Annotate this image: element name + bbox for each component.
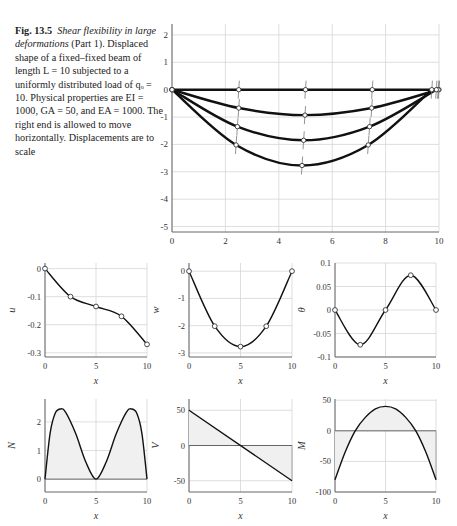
y-axis-label: V <box>150 441 161 449</box>
y-tick-label: -0.05 <box>313 329 331 339</box>
w-plot: 05100-1-2-3xw <box>150 263 296 386</box>
y-tick-label: 0 <box>37 264 41 274</box>
y-tick-label: 1 <box>164 57 169 67</box>
y-tick-label: -1 <box>161 112 169 122</box>
x-tick-label: 10 <box>432 361 441 371</box>
x-tick-label: 5 <box>383 496 387 506</box>
x-tick-label: 0 <box>187 496 191 506</box>
data-point <box>434 308 439 313</box>
x-tick-label: 10 <box>143 361 152 371</box>
node-marker <box>430 87 434 91</box>
node-marker <box>367 124 371 128</box>
node-marker <box>370 87 374 91</box>
x-tick-label: 8 <box>383 236 388 246</box>
node-marker <box>303 87 307 91</box>
y-tick-label: 0 <box>181 266 185 276</box>
data-point <box>119 314 124 319</box>
y-axis-label: θ <box>296 307 307 312</box>
y-tick-label: -2 <box>178 321 185 331</box>
node-marker <box>370 106 374 110</box>
data-point <box>238 344 243 349</box>
data-point <box>68 294 73 299</box>
y-tick-label: -0.2 <box>28 320 41 330</box>
V-plot: 0510500-50xV <box>150 399 296 521</box>
x-axis-label: x <box>382 375 388 386</box>
x-tick-label: 10 <box>435 236 445 246</box>
figure-canvas: 0246810210-1-2-3-4-505100-0.1-0.2-0.3xu0… <box>0 0 457 526</box>
y-tick-label: -3 <box>161 167 169 177</box>
y-axis-label: w <box>150 306 161 313</box>
data-point <box>290 269 295 274</box>
node-marker <box>303 113 307 117</box>
x-tick-label: 5 <box>94 361 98 371</box>
x-tick-label: 10 <box>143 496 152 506</box>
y-tick-label: 0.05 <box>316 282 331 292</box>
N-plot: 0510210xN <box>6 399 151 521</box>
data-point <box>187 269 192 274</box>
y-tick-label: -4 <box>161 194 169 204</box>
data-point <box>212 324 217 329</box>
node-marker <box>300 163 304 167</box>
y-tick-label: 1 <box>37 446 41 456</box>
y-tick-label: -0.1 <box>318 352 331 362</box>
x-tick-label: 10 <box>432 496 441 506</box>
M-plot: 0510500-50-100xM <box>296 395 440 521</box>
x-tick-label: 0 <box>187 361 191 371</box>
y-tick-label: 0 <box>327 426 331 436</box>
y-axis-label: N <box>6 441 17 450</box>
y-tick-label: -1 <box>178 293 185 303</box>
node-marker <box>366 143 370 147</box>
u-plot: 05100-0.1-0.2-0.3xu <box>6 263 151 386</box>
x-tick-label: 10 <box>288 496 297 506</box>
x-tick-label: 0 <box>333 361 337 371</box>
displaced-shape: 0246810210-1-2-3-4-5 <box>161 24 445 246</box>
y-tick-label: -5 <box>161 222 169 232</box>
data-point <box>145 342 150 347</box>
theta-plot: 05100.10.050-0.05-0.1xθ <box>296 258 440 386</box>
node-marker <box>170 87 174 91</box>
data-point <box>94 304 99 309</box>
node-marker <box>301 138 305 142</box>
node-marker <box>237 87 241 91</box>
y-axis-label: u <box>6 307 17 312</box>
y-axis-label: M <box>296 440 307 451</box>
x-tick-label: 0 <box>43 496 47 506</box>
y-tick-label: 0 <box>164 85 169 95</box>
x-tick-label: 6 <box>330 236 335 246</box>
y-tick-label: -0.1 <box>28 292 41 302</box>
y-tick-label: -100 <box>315 487 331 497</box>
node-marker <box>234 143 238 147</box>
data-point <box>383 308 388 313</box>
y-tick-label: 0 <box>181 441 185 451</box>
x-tick-label: 4 <box>277 236 282 246</box>
x-axis-label: x <box>93 510 99 521</box>
x-axis-label: x <box>237 375 243 386</box>
y-tick-label: -3 <box>178 348 185 358</box>
x-tick-label: 10 <box>288 361 297 371</box>
y-tick-label: -2 <box>161 139 169 149</box>
y-tick-label: -50 <box>174 476 185 486</box>
x-tick-label: 5 <box>94 496 98 506</box>
x-axis-label: x <box>93 375 99 386</box>
data-point <box>358 342 363 347</box>
data-point <box>333 308 338 313</box>
y-tick-label: 0 <box>37 474 41 484</box>
y-tick-label: -0.3 <box>28 348 41 358</box>
y-tick-label: 2 <box>164 30 169 40</box>
data-point <box>43 266 48 271</box>
x-tick-label: 0 <box>333 496 337 506</box>
data-point <box>408 273 413 278</box>
y-tick-label: -50 <box>320 456 331 466</box>
x-tick-label: 0 <box>170 236 175 246</box>
x-tick-label: 5 <box>383 361 387 371</box>
x-tick-label: 2 <box>223 236 228 246</box>
node-marker <box>434 87 438 91</box>
x-tick-label: 5 <box>238 361 242 371</box>
data-point <box>264 324 269 329</box>
node-marker <box>237 106 241 110</box>
x-tick-label: 0 <box>43 361 47 371</box>
y-tick-label: 50 <box>323 395 332 405</box>
x-axis-label: x <box>382 510 388 521</box>
node-marker <box>235 124 239 128</box>
y-tick-label: 0.1 <box>320 258 331 268</box>
